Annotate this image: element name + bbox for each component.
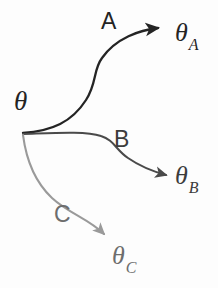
theta-glyph-c: θ <box>112 241 125 270</box>
target-theta-c-label: θC <box>112 243 135 273</box>
branch-label-b: B <box>114 128 129 151</box>
branch-label-a: A <box>101 10 116 33</box>
theta-subscript-b: B <box>189 179 199 196</box>
target-theta-b-label: θB <box>175 163 198 193</box>
branch-label-c: C <box>54 203 71 226</box>
target-theta-a-label: θA <box>175 20 198 50</box>
branch-arrow-a <box>23 28 158 133</box>
source-theta-label: θ <box>14 88 27 115</box>
theta-subscript-a: A <box>189 36 199 53</box>
theta-glyph-a: θ <box>175 18 188 47</box>
theta-glyph-b: θ <box>175 161 188 190</box>
diagram-canvas: θ A B C θA θB θC <box>0 0 218 288</box>
branch-arrow-b <box>23 133 166 175</box>
theta-subscript-c: C <box>126 259 137 276</box>
